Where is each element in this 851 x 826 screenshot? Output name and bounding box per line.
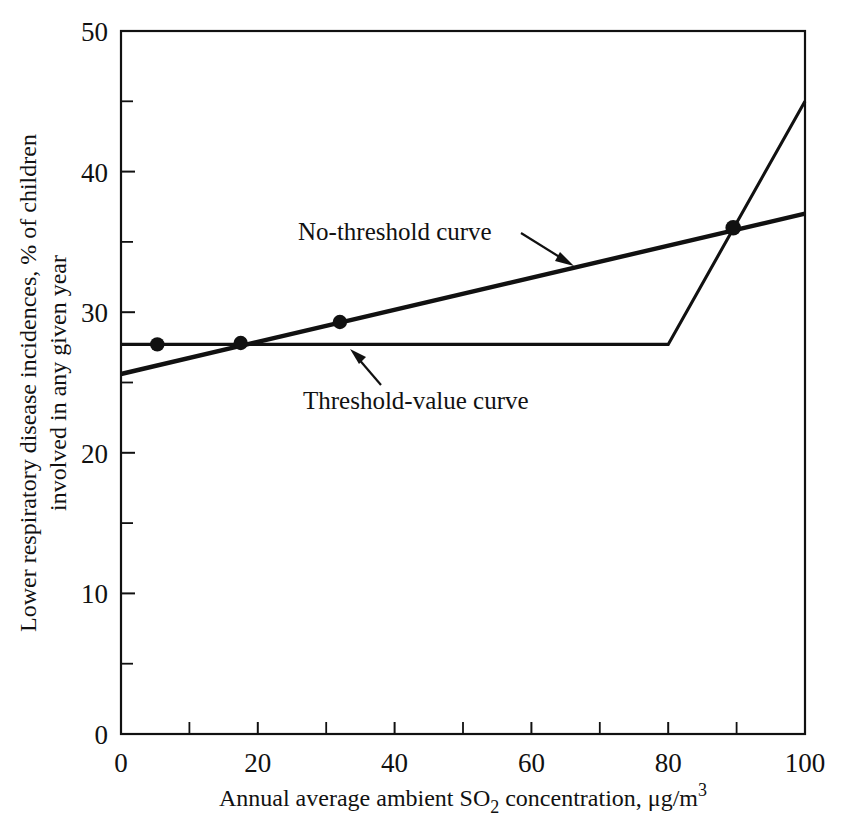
y-tick-label-20: 20 xyxy=(81,439,108,469)
y-tick-label-50: 50 xyxy=(81,17,108,47)
y-tick-label-30: 30 xyxy=(81,298,108,328)
data-point xyxy=(234,336,248,350)
x-axis-title-subscript: 2 xyxy=(490,797,499,817)
data-point xyxy=(333,315,347,329)
x-tick-label-100: 100 xyxy=(785,748,826,778)
x-axis-title-part1: Annual average ambient SO xyxy=(219,785,490,811)
y-axis-title-line2: involved in any given year xyxy=(45,255,71,511)
y-tick-label-40: 40 xyxy=(81,158,108,188)
y-axis-title-line1: Lower respiratory disease incidences, % … xyxy=(15,134,41,632)
x-axis-title-superscript: 3 xyxy=(698,780,707,800)
y-tick-label-0: 0 xyxy=(95,720,109,750)
x-tick-label-80: 80 xyxy=(655,748,682,778)
data-point xyxy=(725,220,741,236)
annotation-no-threshold-label: No-threshold curve xyxy=(298,218,492,245)
x-axis-title-part2: concentration, μg/m xyxy=(499,785,698,811)
data-point xyxy=(150,337,164,351)
chart-figure: 0 20 40 60 80 100 0 10 20 30 40 xyxy=(0,0,851,826)
x-tick-label-40: 40 xyxy=(381,748,408,778)
y-tick-label-10: 10 xyxy=(81,579,108,609)
x-tick-label-60: 60 xyxy=(518,748,545,778)
dose-response-chart: 0 20 40 60 80 100 0 10 20 30 40 xyxy=(0,0,851,826)
x-tick-label-0: 0 xyxy=(114,748,128,778)
annotation-threshold-value-label: Threshold-value curve xyxy=(303,387,529,414)
x-tick-label-20: 20 xyxy=(244,748,271,778)
